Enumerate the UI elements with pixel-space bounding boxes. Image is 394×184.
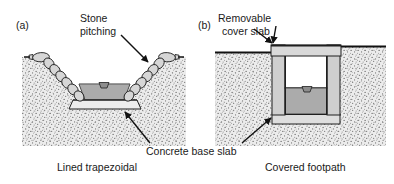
removable-cover-slab-label-line1: Removable — [218, 12, 271, 24]
engineering-diagram: (a) Stone pitching Lined trapezoidal — [0, 0, 394, 184]
caption-panel-a: Lined trapezoidal — [57, 161, 137, 173]
stone-pitching-label-line1: Stone — [80, 12, 108, 24]
panel-marker-a: (a) — [16, 19, 29, 31]
panel-marker-b: (b) — [198, 19, 211, 31]
stone-pitching-label-line2: pitching — [80, 25, 116, 37]
ground-mass-b-below — [215, 122, 386, 146]
water-level-marker-b — [302, 87, 312, 93]
caption-panel-b: Covered footpath — [265, 161, 346, 173]
removable-cover-slab-b — [271, 45, 341, 56]
figure-canvas: (a) Stone pitching Lined trapezoidal — [0, 0, 394, 184]
water-level-marker-a — [99, 83, 109, 89]
conduit-interior-b — [285, 55, 327, 88]
concrete-base-slab-label: Concrete base slab — [146, 145, 237, 157]
